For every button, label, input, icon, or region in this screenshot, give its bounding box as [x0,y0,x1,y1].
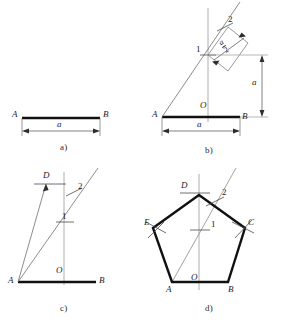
arrowhead-right [233,129,240,134]
panel-c-drawing [0,160,144,322]
label-point-e: E [144,218,150,227]
arrowhead-left [22,129,29,134]
panel-b: A B O 1 2 a a a 2 [144,0,288,161]
label-point-2: 2 [228,15,233,24]
panel-a-drawing [0,0,144,161]
label-point-1: 1 [196,45,201,54]
caption-panel-c: c) [60,303,67,313]
panel-b-drawing [144,0,288,161]
label-point-c: C [248,218,254,227]
label-point-1: 1 [211,220,216,229]
arrowhead-to-d [43,184,49,191]
label-dimension-a: a [57,120,62,129]
label-dimension-a-horizontal: a [197,120,202,129]
label-dimension-a-vertical: a [252,78,257,87]
caption-panel-b: b) [205,145,213,155]
figure-sheet: A B a a) [0,0,288,322]
label-point-o: O [56,266,63,275]
label-point-2: 2 [222,188,227,197]
label-point-1: 1 [62,212,67,221]
arrowhead-v-top [260,55,265,62]
label-point-a: A [152,110,158,119]
panel-c: A B O 1 2 D [0,160,144,322]
label-point-2: 2 [78,182,83,191]
caption-panel-d: d) [205,303,213,313]
label-point-a: A [166,285,172,294]
label-point-b: B [228,285,234,294]
label-point-a: A [8,276,14,285]
label-point-b: B [242,112,248,121]
label-point-o: O [191,273,198,282]
panel-d-drawing [144,160,288,322]
label-point-a: A [12,110,18,119]
arrowhead-right [93,129,100,134]
label-point-d: D [43,171,50,180]
panel-d: A B C D E O 1 2 [144,160,288,322]
arrowhead-left [162,129,169,134]
radius-a-to-d [18,184,46,282]
label-point-b: B [99,276,105,285]
arrowhead-v-bottom [260,110,265,117]
label-point-o: O [200,101,207,110]
label-point-b: B [103,110,109,119]
arrowhead-half-a-2 [239,32,247,37]
label-point-d: D [181,181,188,190]
caption-panel-a: a) [60,142,67,152]
panel-a: A B a [0,0,144,161]
